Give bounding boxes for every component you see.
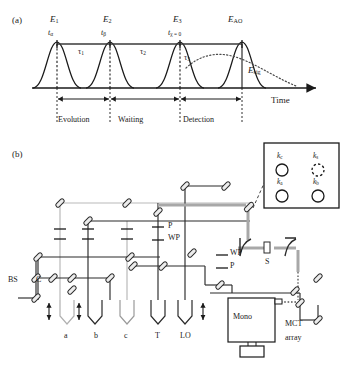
panel-b-label: (b)	[12, 150, 23, 159]
optics-bars	[54, 227, 228, 268]
tau-label-2: τ2	[140, 48, 146, 57]
label-waveplate-mid: WP	[168, 234, 180, 242]
tau-sub-2: 2	[143, 50, 146, 56]
sample-cell	[264, 242, 270, 253]
inset-sub-ks: s	[316, 154, 318, 160]
inset-sub-kb: b	[316, 180, 319, 186]
time-label-beta: tβ	[101, 29, 106, 38]
tau-label-1: τ1	[78, 48, 84, 57]
field-sub-3: 3	[179, 18, 182, 24]
beam-label-b: b	[94, 332, 98, 340]
output-beams	[60, 300, 192, 324]
time-sub-chi: χ = 0	[170, 31, 181, 37]
monochromator-base	[240, 346, 264, 357]
signal-field-curve	[186, 54, 296, 86]
tau-sub-1: 1	[81, 50, 84, 56]
figure-root	[0, 0, 341, 368]
beam-label-lo: LO	[180, 332, 191, 340]
field-label-eao: EAO	[228, 15, 242, 24]
field-label-e1: E1	[50, 15, 59, 24]
time-label-chi: tχ = 0	[168, 29, 181, 38]
field-sub-ao: AO	[234, 18, 243, 24]
label-detector-line2: array	[285, 334, 301, 342]
inset-box	[264, 143, 339, 208]
inset-label-kc: kc	[277, 152, 283, 160]
label-monochromator: Mono	[233, 313, 252, 321]
field-sub-1: 1	[56, 18, 59, 24]
signal-field-label: Esig	[248, 66, 261, 75]
field-sub-2: 2	[109, 18, 112, 24]
mono-entrance-slit	[275, 299, 282, 304]
time-label-alpha: tα	[48, 29, 53, 38]
label-beamsplitter: BS	[8, 276, 18, 284]
label-chopper: C	[36, 276, 41, 284]
tau-label-3: τ3	[184, 54, 190, 63]
period-label-detection: Detection	[183, 116, 214, 124]
beam-label-a: a	[64, 332, 68, 340]
time-sub-beta: β	[103, 31, 106, 37]
period-label-waiting: Waiting	[118, 116, 143, 124]
beam-label-c: c	[124, 332, 128, 340]
panel-a	[32, 40, 316, 122]
inset-sub-ka: a	[280, 180, 282, 186]
time-sub-alpha: α	[50, 31, 53, 37]
label-polarizer-right: P	[230, 262, 234, 270]
label-detector-line1: MCT	[285, 320, 302, 328]
panel-a-label: (a)	[12, 16, 22, 25]
time-axis-label: Time	[271, 96, 290, 105]
inset-sub-kc: c	[280, 154, 282, 160]
field-label-e2: E2	[103, 15, 112, 24]
label-sample: S	[265, 258, 269, 266]
beam-label-t: T	[155, 332, 160, 340]
inset-label-ka: ka	[277, 178, 283, 186]
field-label-e3: E3	[173, 15, 182, 24]
inset-label-ks: ks	[313, 152, 318, 160]
pulse-envelopes	[33, 42, 266, 88]
label-waveplate-right: WP	[230, 249, 242, 257]
tau-sub-3: 3	[187, 56, 190, 62]
label-polarizer-mid: P	[168, 222, 172, 230]
pulse-center-lines	[57, 44, 180, 88]
inset-label-kb: kb	[313, 178, 319, 186]
period-label-evolution: Evolution	[58, 116, 90, 124]
signal-field-sub: sig	[254, 69, 261, 75]
